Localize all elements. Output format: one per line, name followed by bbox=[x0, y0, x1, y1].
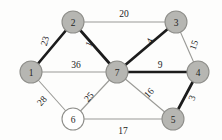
node-label-4: 4 bbox=[196, 68, 201, 78]
graph-node-5[interactable]: 5 bbox=[162, 108, 184, 130]
edge-weight-label-1-7: 36 bbox=[71, 60, 81, 70]
graph-edge-3-7 bbox=[117, 22, 176, 72]
graph-node-3[interactable]: 3 bbox=[165, 11, 187, 33]
edge-weight-label-3-4: 15 bbox=[188, 39, 201, 52]
graph-node-2[interactable]: 2 bbox=[62, 11, 84, 33]
node-label-1: 1 bbox=[29, 68, 34, 78]
edge-weight-label-7-5: 16 bbox=[142, 86, 156, 100]
edge-weight-label-6-5: 17 bbox=[118, 126, 128, 136]
edge-weight-label-1-2: 23 bbox=[39, 35, 52, 47]
edge-weight-label-6-7: 25 bbox=[82, 90, 96, 104]
node-label-7: 7 bbox=[115, 68, 120, 78]
node-label-6: 6 bbox=[71, 115, 76, 125]
edge-weight-label-7-4: 9 bbox=[158, 60, 163, 70]
node-label-5: 5 bbox=[171, 115, 176, 125]
edge-weight-label-2-3: 20 bbox=[119, 9, 129, 19]
graph-node-6[interactable]: 6 bbox=[62, 108, 84, 130]
graph-node-4[interactable]: 4 bbox=[187, 61, 209, 83]
edge-weight-label-3-7: 4 bbox=[144, 36, 155, 45]
edge-weight-label-1-6: 28 bbox=[35, 94, 49, 108]
node-layer: 1234567 bbox=[20, 11, 209, 130]
edge-weight-label-4-5: 3 bbox=[186, 94, 197, 102]
node-label-2: 2 bbox=[71, 18, 76, 28]
graph-canvas: 1234567 23201415369316282517 bbox=[0, 0, 222, 140]
node-label-3: 3 bbox=[174, 18, 179, 28]
graph-figure: 1234567 23201415369316282517 bbox=[0, 0, 222, 140]
graph-node-7[interactable]: 7 bbox=[106, 61, 128, 83]
graph-node-1[interactable]: 1 bbox=[20, 61, 42, 83]
